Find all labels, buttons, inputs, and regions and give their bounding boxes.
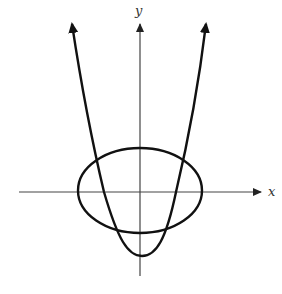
diagram-canvas: y x xyxy=(0,0,282,294)
x-axis-label: x xyxy=(268,184,276,199)
y-axis-label: y xyxy=(134,3,143,18)
parabola-right-branch xyxy=(142,24,206,256)
parabola-left-branch xyxy=(72,24,142,256)
